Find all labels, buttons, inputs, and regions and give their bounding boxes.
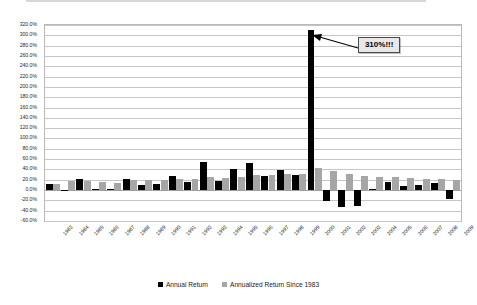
bar-group: [199, 25, 214, 221]
legend-swatch-icon: [222, 282, 227, 287]
bar-annualized-return: [423, 179, 430, 190]
bar-annual-return: [169, 176, 176, 190]
bar-group: [369, 25, 384, 221]
x-axis-tick-label: 2009: [462, 224, 474, 236]
x-axis-tick-label: 2008: [447, 224, 459, 236]
bar-annualized-return: [53, 184, 60, 190]
bar-annual-return: [46, 184, 53, 190]
legend-swatch-icon: [158, 282, 163, 287]
y-axis-tick-label: 160.0%: [0, 104, 40, 110]
bar-annualized-return: [392, 177, 399, 190]
bar-group: [107, 25, 122, 221]
bar-group: [168, 25, 183, 221]
bar-group: [322, 25, 337, 221]
bar-group: [276, 25, 291, 221]
bar-annual-return: [277, 170, 284, 190]
bar-annualized-return: [238, 177, 245, 190]
y-axis-tick-label: -60.0%: [0, 217, 40, 223]
bar-annual-return: [369, 189, 376, 191]
x-axis-tick-label: 1988: [139, 224, 151, 236]
x-axis-tick-label: 1994: [231, 224, 243, 236]
x-axis: 1983198419851986198719881989199019911992…: [44, 222, 462, 262]
bar-annualized-return: [269, 175, 276, 190]
x-axis-tick-label: 1995: [246, 224, 258, 236]
bar-annualized-return: [176, 179, 183, 190]
x-axis-tick-label: 1983: [62, 224, 74, 236]
bar-annualized-return: [130, 180, 137, 190]
bar-annual-return: [230, 169, 237, 190]
bar-group: [76, 25, 91, 221]
bar-annualized-return: [114, 183, 121, 190]
y-axis-tick-label: 80.0%: [0, 145, 40, 151]
legend-item: Annual Return: [158, 281, 208, 288]
bar-annual-return: [153, 184, 160, 190]
y-axis-tick-label: -40.0%: [0, 207, 40, 213]
bar-annualized-return: [453, 180, 460, 190]
bar-annual-return: [338, 190, 345, 207]
y-axis-tick-label: 0.0%: [0, 186, 40, 192]
bar-annualized-return: [192, 179, 199, 190]
bar-group: [60, 25, 75, 221]
bar-annual-return: [354, 190, 361, 205]
x-axis-tick-label: 1984: [77, 224, 89, 236]
y-axis-tick-label: 180.0%: [0, 93, 40, 99]
bar-annualized-return: [99, 182, 106, 190]
bar-annualized-return: [222, 178, 229, 190]
y-axis-tick-label: 40.0%: [0, 165, 40, 171]
plot-area: [44, 24, 462, 222]
y-axis-tick-label: 120.0%: [0, 124, 40, 130]
bar-annual-return: [415, 185, 422, 190]
y-axis-tick-label: 200.0%: [0, 83, 40, 89]
bar-annual-return: [246, 163, 253, 190]
y-axis-tick-label: 220.0%: [0, 73, 40, 79]
bars-layer: [45, 25, 461, 221]
x-axis-tick-label: 2006: [416, 224, 428, 236]
bar-annualized-return: [299, 174, 306, 190]
y-axis-tick-label: 140.0%: [0, 114, 40, 120]
x-axis-tick-label: 1989: [154, 224, 166, 236]
bar-annual-return: [138, 185, 145, 190]
bar-annualized-return: [145, 180, 152, 190]
bar-group: [384, 25, 399, 221]
bar-annual-return: [61, 190, 68, 191]
y-axis-tick-label: 260.0%: [0, 52, 40, 58]
x-axis-tick-label: 1999: [308, 224, 320, 236]
bar-annual-return: [308, 30, 315, 190]
bar-group: [230, 25, 245, 221]
y-axis-tick-label: 320.0%: [0, 21, 40, 27]
bar-annual-return: [184, 182, 191, 190]
legend-label: Annualized Return Since 1983: [230, 281, 319, 288]
legend-label: Annual Return: [166, 281, 208, 288]
x-axis-tick-label: 1987: [123, 224, 135, 236]
bar-annual-return: [92, 189, 99, 190]
x-axis-tick-label: 1997: [277, 224, 289, 236]
bar-annual-return: [76, 179, 83, 190]
bar-annualized-return: [68, 181, 75, 190]
x-axis-tick-label: 2005: [401, 224, 413, 236]
bar-annualized-return: [438, 179, 445, 190]
bar-annual-return: [215, 181, 222, 190]
bar-annualized-return: [330, 171, 337, 190]
x-axis-tick-label: 1986: [108, 224, 120, 236]
bar-group: [245, 25, 260, 221]
x-axis-tick-label: 2003: [370, 224, 382, 236]
y-axis-tick-label: 20.0%: [0, 176, 40, 182]
bar-annual-return: [261, 176, 268, 190]
bar-annual-return: [400, 186, 407, 190]
y-axis-tick-label: 100.0%: [0, 134, 40, 140]
x-axis-tick-label: 1990: [169, 224, 181, 236]
bar-annual-return: [292, 175, 299, 190]
top-edge-artifact: [26, 0, 426, 2]
y-axis-tick-label: 280.0%: [0, 42, 40, 48]
bar-group: [292, 25, 307, 221]
x-axis-tick-label: 1992: [200, 224, 212, 236]
x-axis-tick-label: 1985: [92, 224, 104, 236]
bar-group: [399, 25, 414, 221]
bar-annual-return: [323, 190, 330, 201]
bar-group: [430, 25, 445, 221]
x-axis-tick-label: 1991: [185, 224, 197, 236]
bar-group: [91, 25, 106, 221]
x-axis-tick-label: 2004: [385, 224, 397, 236]
x-axis-tick-label: 2002: [354, 224, 366, 236]
bar-chart: 320.0%300.0%280.0%260.0%240.0%220.0%200.…: [0, 0, 477, 305]
